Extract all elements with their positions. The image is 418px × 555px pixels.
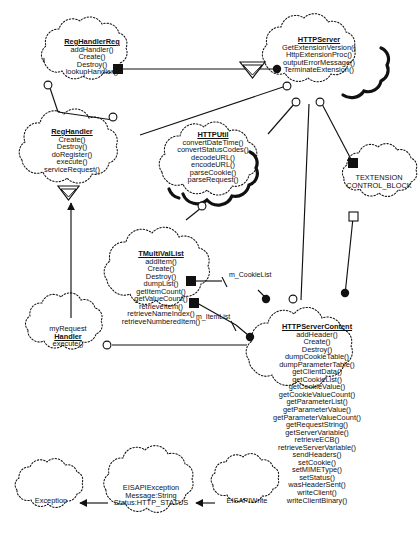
- class-operation: parseRequest(): [158, 176, 268, 184]
- class-name-line2: CONTROL_BLOCK: [341, 182, 417, 190]
- class-textension-control-block[interactable]: TEXTENSION CONTROL_BLOCK: [341, 174, 417, 189]
- role-marker-hollow: [198, 202, 206, 210]
- role-marker-hollow: [44, 81, 52, 89]
- role-marker-hollow: [316, 98, 324, 106]
- class-operation: lookupHandler(): [42, 68, 142, 76]
- connector-label-m-itemlist: m_ItemList: [196, 313, 230, 320]
- role-marker-filled: [262, 295, 270, 303]
- class-operation: execute(): [28, 340, 108, 348]
- class-operation: serviceRequest(): [18, 166, 126, 174]
- class-reghandler[interactable]: RegHandler Create() Destroy() doRegister…: [18, 128, 126, 173]
- role-marker-hollow: [283, 82, 291, 90]
- role-marker-filled: [341, 289, 349, 297]
- class-name: EISAPIWrite: [212, 497, 282, 505]
- composition-marker: [348, 158, 358, 168]
- class-name: Exception: [16, 497, 86, 505]
- role-marker-hollow: [109, 113, 117, 121]
- role-marker-hollow: [289, 295, 297, 303]
- connector-label-m-cookielist: m_CookieList: [229, 271, 271, 278]
- class-attribute: Status:HTTP_STATUS: [103, 499, 199, 507]
- class-eisapiexception[interactable]: EISAPIException Message:String Status:HT…: [103, 484, 199, 507]
- class-exception[interactable]: Exception: [16, 497, 86, 505]
- navigation-tick: [222, 277, 236, 331]
- class-httpserver[interactable]: HTTPServer GetExtensionVersion() HttpExt…: [258, 36, 380, 74]
- class-httputil[interactable]: HTTPUtil convertDateTime() convertStatus…: [158, 131, 268, 184]
- class-eisapiwrite[interactable]: EISAPIWrite: [212, 497, 282, 505]
- aggregation-marker: [349, 212, 358, 221]
- role-marker-hollow: [292, 98, 300, 106]
- diagram-canvas: RegHandlerReg addHandler() Create() Dest…: [0, 0, 418, 555]
- class-httpservercontent[interactable]: HTTPServerContent addHeader() Create() D…: [249, 323, 385, 504]
- class-reghandlerreg[interactable]: RegHandlerReg addHandler() Create() Dest…: [42, 38, 142, 76]
- class-myrequesthandler[interactable]: myRequest Handler execute(): [28, 325, 108, 348]
- class-operation: TerminateExtension(): [258, 66, 380, 74]
